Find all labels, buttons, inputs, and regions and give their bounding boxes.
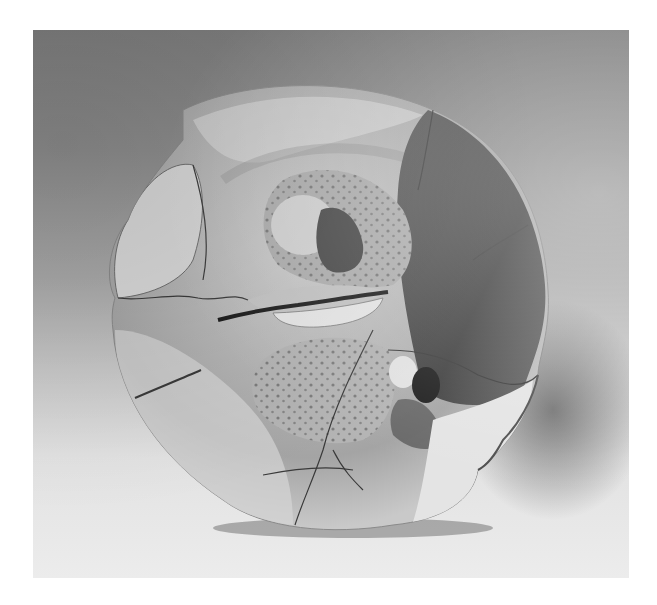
plate-illustration (33, 30, 629, 578)
page-background (0, 0, 657, 605)
dark-hole (412, 367, 440, 403)
dark-glaze-region (397, 110, 545, 405)
ceramic-plate-photo (33, 30, 629, 578)
